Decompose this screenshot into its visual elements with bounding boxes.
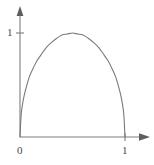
plot-figure: 1 0 1 bbox=[0, 0, 154, 165]
y-axis-arrow-icon bbox=[17, 6, 24, 16]
arch-curve bbox=[20, 33, 125, 137]
x-axis-tick-label-one: 1 bbox=[122, 145, 128, 156]
plot-canvas bbox=[0, 0, 154, 165]
x-axis-arrow-icon bbox=[139, 133, 150, 141]
y-axis-tick-label-one: 1 bbox=[7, 27, 13, 38]
origin-tick-label: 0 bbox=[17, 145, 23, 156]
